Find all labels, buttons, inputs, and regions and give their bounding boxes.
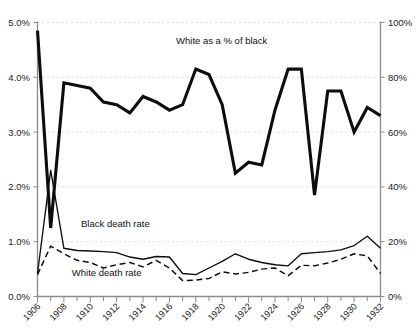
black-series-label: Black death rate bbox=[81, 218, 150, 229]
x-axis-tick-label: 1926 bbox=[285, 301, 306, 322]
x-axis-tick-label: 1930 bbox=[338, 301, 359, 322]
chart-container: 0.0%1.0%2.0%3.0%4.0%5.0% 0%20%40%60%80%1… bbox=[0, 0, 418, 332]
x-axis-tick-label: 1906 bbox=[21, 301, 42, 322]
y-axis-left-tick-label: 3.0% bbox=[8, 127, 30, 138]
x-axis-tick-label: 1908 bbox=[48, 301, 69, 322]
gridlines-group bbox=[38, 23, 381, 242]
y-axis-right-tick-label: 80% bbox=[388, 72, 408, 83]
x-axis-tick-label: 1928 bbox=[311, 301, 332, 322]
y-axis-left-tick-label: 4.0% bbox=[8, 72, 30, 83]
x-axis-tick-label: 1918 bbox=[179, 301, 200, 322]
ratio-series-label: White as a % of black bbox=[176, 35, 268, 46]
y-axis-right-tick-label: 60% bbox=[388, 127, 408, 138]
data-series-group bbox=[38, 31, 381, 281]
x-axis-tick-label: 1914 bbox=[127, 301, 148, 322]
y-axis-left-tick-label: 1.0% bbox=[8, 236, 30, 247]
x-axis-tick-label: 1932 bbox=[364, 301, 385, 322]
white-series-label: White death rate bbox=[72, 267, 142, 278]
line-chart: 0.0%1.0%2.0%3.0%4.0%5.0% 0%20%40%60%80%1… bbox=[0, 0, 418, 332]
x-axis-labels-group: 1906190819101912191419161918192019221924… bbox=[21, 301, 385, 322]
x-axis-tick-label: 1910 bbox=[74, 301, 95, 322]
x-axis-tick-label: 1916 bbox=[153, 301, 174, 322]
y-axis-right-tick-label: 100% bbox=[388, 17, 413, 28]
y-axis-left-tick-label: 0.0% bbox=[8, 291, 30, 302]
y-axis-right-tick-label: 40% bbox=[388, 181, 408, 192]
x-axis-tick-label: 1924 bbox=[259, 301, 280, 322]
y-axis-right-tick-label: 0% bbox=[388, 291, 402, 302]
y-axis-right-labels-group: 0%20%40%60%80%100% bbox=[381, 17, 413, 302]
y-axis-left-tick-label: 5.0% bbox=[8, 17, 30, 28]
y-axis-right-tick-label: 20% bbox=[388, 236, 408, 247]
x-axis-tick-label: 1922 bbox=[232, 301, 253, 322]
x-axis-ticks-group bbox=[38, 297, 381, 303]
series-line-white-pct-of-black bbox=[38, 31, 381, 228]
y-axis-left-labels-group: 0.0%1.0%2.0%3.0%4.0%5.0% bbox=[8, 17, 37, 302]
y-axis-left-tick-label: 2.0% bbox=[8, 181, 30, 192]
x-axis-tick-label: 1920 bbox=[206, 301, 227, 322]
x-axis-tick-label: 1912 bbox=[100, 301, 121, 322]
axes-group bbox=[38, 22, 381, 297]
annotations-group: White as a % of blackBlack death rateWhi… bbox=[72, 35, 268, 277]
